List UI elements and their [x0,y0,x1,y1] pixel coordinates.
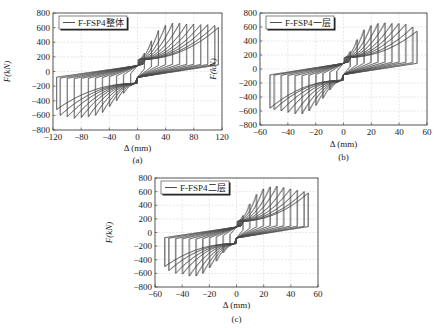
x-tick-label: −80 [74,132,89,142]
legend-label: F-FSP4二层 [180,183,226,193]
y-axis-label: F(kN) [2,61,12,84]
x-tick-label: −20 [202,289,217,299]
y-tick-label: 600 [37,23,51,33]
x-axis-label: Δ (mm) [330,139,358,149]
y-tick-label: −400 [31,96,50,106]
x-tick-label: 60 [423,127,433,137]
panel-label: (a) [133,155,143,165]
x-tick-label: −20 [309,127,324,137]
panel-label: (c) [232,314,242,324]
y-tick-label: −400 [133,255,152,265]
x-tick-label: −40 [175,289,190,299]
x-tick-label: 80 [189,132,199,142]
y-axis-label: F(kN) [208,58,218,81]
y-tick-label: 400 [37,37,51,47]
y-tick-label: 400 [139,200,153,210]
y-tick-label: −800 [238,120,257,130]
grid-lines [53,13,222,130]
y-tick-label: −600 [133,268,152,278]
y-tick-label: −200 [238,78,257,88]
y-tick-label: −200 [31,81,50,91]
x-tick-label: 20 [259,289,269,299]
chart-panel-c: −60−40−200204060−800−600−400−20002004006… [104,173,323,324]
y-tick-label: −800 [31,125,50,135]
legend: F-FSP4一层 [266,16,336,31]
legend-label: F-FSP4整体 [78,17,124,28]
y-tick-label: 0 [148,228,153,238]
x-tick-label: 40 [395,127,405,137]
figure-canvas: −120−80−4004080120−800−600−400−200020040… [0,0,439,335]
x-tick-label: 60 [314,289,324,299]
y-tick-label: 0 [253,64,258,74]
x-tick-label: 0 [234,289,239,299]
y-tick-label: −200 [133,241,152,251]
y-tick-label: 600 [139,187,153,197]
x-axis-label: Δ (mm) [223,300,251,310]
y-tick-label: 400 [244,36,258,46]
y-tick-label: −800 [133,282,152,292]
y-tick-label: 800 [37,8,51,18]
y-tick-label: 600 [244,22,258,32]
y-tick-label: 200 [139,214,153,224]
y-tick-label: 800 [244,8,258,18]
x-tick-label: −40 [102,132,117,142]
y-tick-label: 800 [139,173,153,183]
y-tick-label: −600 [31,110,50,120]
y-tick-label: 200 [244,50,258,60]
x-tick-label: 40 [161,132,171,142]
y-tick-label: −400 [238,92,257,102]
x-tick-label: 20 [367,127,377,137]
chart-panel-a: −120−80−4004080120−800−600−400−200020040… [2,8,229,165]
panel-label: (b) [338,152,349,162]
hysteresis-series [270,23,418,114]
y-tick-label: 0 [46,67,51,77]
x-tick-label: 120 [215,132,229,142]
legend: F-FSP4二层 [161,181,231,196]
legend-label: F-FSP4一层 [285,18,331,28]
y-axis-label: F(kN) [104,222,114,245]
chart-panel-b: −60−40−200204060−800−600−400−20002004006… [208,8,432,162]
x-tick-label: 40 [286,289,296,299]
y-tick-label: −600 [238,106,257,116]
x-tick-label: 0 [135,132,140,142]
x-tick-label: −40 [281,127,296,137]
legend: F-FSP4整体 [59,16,129,31]
y-tick-label: 200 [37,52,51,62]
x-tick-label: 0 [341,127,346,137]
x-axis-label: Δ (mm) [124,143,152,153]
